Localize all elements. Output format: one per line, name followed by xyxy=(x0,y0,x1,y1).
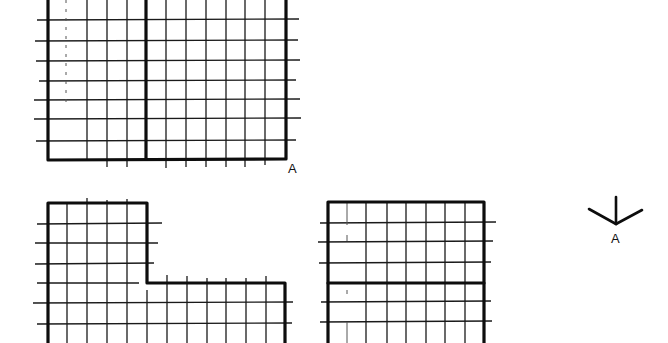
front-view-horizontal-grid xyxy=(33,223,293,324)
front-view-vertical-grid xyxy=(67,198,266,343)
side-view xyxy=(318,202,496,343)
top-view-horizontal-grid xyxy=(34,19,301,141)
side-view-horizontal-grid xyxy=(318,222,496,322)
top-view-label: A xyxy=(288,161,297,176)
arrow-direction-icon xyxy=(589,197,642,224)
front-view xyxy=(33,198,293,343)
arrow-label: A xyxy=(611,231,620,246)
projection-drawing: A xyxy=(0,0,668,343)
top-view: A xyxy=(34,0,301,176)
top-view-vertical-grid xyxy=(87,0,265,168)
view-direction: A xyxy=(589,197,642,246)
